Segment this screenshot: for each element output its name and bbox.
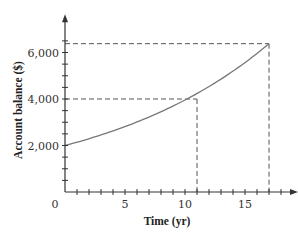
- x-axis-arrow-icon: [290, 189, 298, 195]
- x-tick-labels: 051015: [52, 198, 253, 211]
- x-tick-label: 5: [122, 198, 129, 211]
- dashed-reference-lines: [65, 44, 269, 192]
- balance-curve: [65, 44, 269, 146]
- x-tick-label: 0: [52, 198, 59, 211]
- y-tick-labels: 2,0004,0006,000: [28, 47, 60, 153]
- chart: 051015 2,0004,0006,000 Time (yr) Account…: [0, 0, 298, 235]
- axis-ticks: [62, 41, 281, 195]
- y-tick-label: 6,000: [28, 47, 60, 60]
- y-axis-title: Account balance ($): [12, 61, 25, 159]
- y-tick-label: 2,000: [28, 140, 60, 153]
- axes: [62, 14, 298, 195]
- x-tick-label: 10: [178, 198, 192, 211]
- y-axis-arrow-icon: [62, 14, 68, 22]
- x-axis-title: Time (yr): [144, 215, 191, 228]
- y-tick-label: 4,000: [28, 93, 60, 106]
- x-tick-label: 15: [238, 198, 252, 211]
